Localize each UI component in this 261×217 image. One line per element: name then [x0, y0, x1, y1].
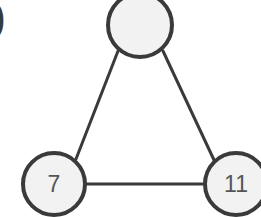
node-top-circle[interactable]	[108, 0, 172, 57]
graph-diagram: 7 11 )	[0, 0, 261, 217]
node-left-label: 7	[48, 171, 61, 197]
stray-paren-glyph: )	[0, 0, 5, 42]
node-top[interactable]	[108, 0, 172, 57]
edge-top-left	[76, 51, 118, 159]
node-left[interactable]: 7	[23, 153, 85, 215]
edge-top-right	[163, 51, 214, 160]
node-right[interactable]: 11	[205, 153, 261, 215]
edge-group	[76, 51, 214, 184]
node-right-label: 11	[224, 171, 248, 197]
diagram-canvas: 7 11 )	[0, 0, 261, 217]
